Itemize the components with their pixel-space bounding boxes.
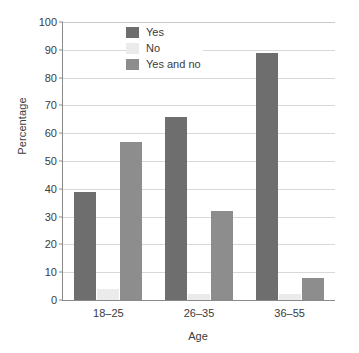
y-axis-title: Percentage bbox=[16, 66, 28, 186]
bar-chart: Percentage 010203040506070809010018–2526… bbox=[0, 0, 359, 353]
bar-yesandno-36-55[interactable] bbox=[302, 278, 324, 300]
y-tick-label: 50 bbox=[45, 155, 57, 167]
bar-yes-26-35[interactable] bbox=[165, 117, 187, 300]
bar-yes-36-55[interactable] bbox=[256, 53, 278, 300]
chart-legend: YesNoYes and no bbox=[126, 26, 203, 70]
legend-label: No bbox=[146, 42, 160, 54]
legend-item-yes-and-no[interactable]: Yes and no bbox=[126, 58, 203, 70]
bar-yes-18-25[interactable] bbox=[74, 192, 96, 300]
legend-label: Yes and no bbox=[146, 58, 201, 70]
legend-label: Yes bbox=[146, 26, 164, 38]
y-tick-label: 90 bbox=[45, 44, 57, 56]
legend-swatch-icon bbox=[126, 43, 139, 54]
y-tick-label: 100 bbox=[39, 16, 57, 28]
x-axis-title: Age bbox=[62, 330, 334, 342]
y-tick-label: 60 bbox=[45, 127, 57, 139]
bar-group: 36–55 bbox=[244, 22, 335, 300]
x-tick-label: 18–25 bbox=[93, 307, 124, 319]
y-tick-label: 20 bbox=[45, 238, 57, 250]
legend-swatch-icon bbox=[126, 59, 139, 70]
legend-item-no[interactable]: No bbox=[126, 42, 203, 54]
bar-no-36-55[interactable] bbox=[279, 294, 301, 300]
bar-no-26-35[interactable] bbox=[188, 294, 210, 300]
y-tick-label: 10 bbox=[45, 266, 57, 278]
bar-no-18-25[interactable] bbox=[97, 289, 119, 300]
y-tick-label: 80 bbox=[45, 72, 57, 84]
y-tick-label: 40 bbox=[45, 183, 57, 195]
legend-swatch-icon bbox=[126, 27, 139, 38]
bar-yesandno-18-25[interactable] bbox=[120, 142, 142, 300]
y-tick-label: 70 bbox=[45, 99, 57, 111]
bar-yesandno-26-35[interactable] bbox=[211, 211, 233, 300]
x-tick-label: 26–35 bbox=[184, 307, 215, 319]
legend-item-yes[interactable]: Yes bbox=[126, 26, 203, 38]
y-tick-label: 0 bbox=[51, 294, 57, 306]
y-tick-label: 30 bbox=[45, 211, 57, 223]
x-tick-label: 36–55 bbox=[274, 307, 305, 319]
